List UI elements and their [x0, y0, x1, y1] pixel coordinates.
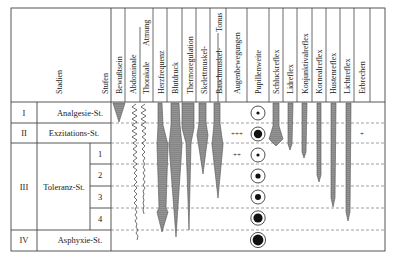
- header-tonus: Tonus: [215, 13, 224, 32]
- header-thorakale: Thorakale: [142, 61, 151, 94]
- header-lidreflex: Lidreflex: [286, 64, 295, 94]
- konjunktivalreflex-bar: [302, 103, 307, 158]
- thorakale-atmung-wave: [141, 104, 146, 214]
- stage-1-numeral: I: [23, 108, 26, 118]
- header-stufen: Stufen: [101, 73, 110, 94]
- stage-3-numeral: III: [20, 182, 29, 192]
- kornealreflex-bar: [317, 103, 321, 182]
- stage-3-level-3: 3: [98, 192, 102, 202]
- schluckreflex-bar: [269, 103, 283, 146]
- blutdruck-bar: [169, 103, 182, 237]
- stage-3-level-2: 2: [98, 170, 102, 180]
- header-abdominale: Abdominale: [129, 54, 138, 94]
- stage-3-level-4: 4: [98, 214, 103, 224]
- pupillenweite-indicators: [250, 106, 265, 248]
- header-skelettmuskel: Skelettmuskel-: [200, 46, 209, 94]
- abdominale-atmung-wave: [132, 104, 138, 240]
- stage-3-level-1: 1: [98, 149, 102, 159]
- stage-2-numeral: II: [21, 128, 27, 138]
- lichtreflex-bar: [346, 103, 351, 221]
- lidreflex-bar: [288, 103, 293, 150]
- header-labels: Stadien Stufen Bewußtsein Abdominale Tho…: [55, 13, 367, 94]
- bauchmuskel-tonus-bar: [212, 103, 223, 198]
- header-augenbewegungen: Augenbewegungen: [233, 32, 242, 94]
- header-pupillenweite: Pupillenweite: [254, 50, 263, 94]
- stage-4-name: Asphyxie-St.: [58, 235, 103, 245]
- stage-labels: I Analgesie-St. II Exzitations-St. III T…: [20, 108, 104, 245]
- header-blutdruck: Blutdruck: [171, 62, 180, 94]
- hustenreflex-bar: [331, 103, 336, 207]
- skelettmuskel-tonus-bar: [197, 103, 208, 174]
- augenbewegungen-stage2: +++: [231, 130, 243, 138]
- stage-4-numeral: IV: [20, 235, 30, 245]
- erbrechen-stage2: +: [360, 130, 364, 138]
- header-bauchmuskel: Bauchmuskel-: [215, 47, 224, 94]
- header-stadien: Stadien: [55, 70, 64, 94]
- header-bewusstsein: Bewußtsein: [115, 56, 124, 94]
- header-erbrechen: Erbrechen: [358, 61, 367, 94]
- header-konjunktivalreflex: Konjunktivalreflex: [301, 33, 310, 94]
- header-atmung: Atmung: [142, 20, 151, 46]
- stage-1-name: Analgesie-St.: [57, 108, 103, 118]
- bewusstsein-bar: [113, 103, 125, 122]
- header-kornealreflex: Kornealreflex: [315, 50, 324, 94]
- header-herzfrequenz: Herzfrequenz: [157, 50, 166, 94]
- stage-dashed-lines: [111, 123, 385, 230]
- header-lichtreflex: Lichtreflex: [343, 58, 352, 94]
- stage-2-name: Exzitations-St.: [49, 128, 99, 138]
- header-thermoregulation: Thermoregulation: [186, 36, 195, 94]
- header-schluckreflex: Schluckreflex: [272, 50, 281, 94]
- stage-3-name: Toleranz-St.: [43, 182, 85, 192]
- thermoregulation-bar: [182, 103, 194, 230]
- anesthesia-stages-diagram: Stadien Stufen Bewußtsein Abdominale Tho…: [0, 0, 393, 265]
- header-hustenreflex: Hustenreflex: [329, 53, 338, 94]
- augenbewegungen-stage3-1: ++: [233, 151, 241, 159]
- herzfrequenz-bar: [157, 103, 168, 232]
